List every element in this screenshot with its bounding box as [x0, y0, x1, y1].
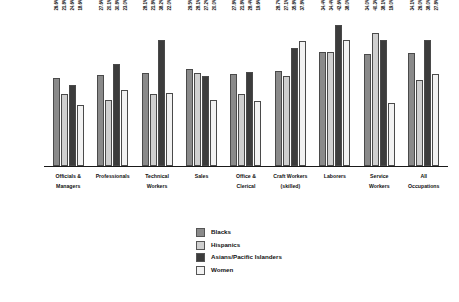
- bar: 27.8%: [432, 74, 439, 166]
- bar-wrapper: 35.8%: [291, 14, 298, 166]
- bar-value-label: 26.0%: [419, 0, 424, 11]
- bar: 35.8%: [291, 48, 298, 166]
- bar-wrapper: 38.0%: [343, 14, 350, 166]
- category-label: TechnicalWorkers: [135, 172, 179, 192]
- x-axis-line: [44, 166, 448, 167]
- bar: 22.0%: [166, 93, 173, 166]
- bar: 21.8%: [238, 94, 245, 166]
- category-label: Officials &Managers: [46, 172, 90, 192]
- bar-wrapper: 30.8%: [113, 14, 120, 166]
- bar: 38.2%: [158, 40, 165, 166]
- bar-value-label: 28.7%: [278, 0, 283, 11]
- bar: 40.3%: [372, 33, 379, 166]
- legend-swatch-icon: [196, 228, 205, 237]
- bar-wrapper: 38.2%: [158, 14, 165, 166]
- bar: 34.4%: [319, 52, 326, 166]
- bar-wrapper: 34.4%: [327, 14, 334, 166]
- legend-item[interactable]: Blacks: [196, 228, 282, 237]
- category-label: Laborers: [313, 172, 357, 192]
- bar-value-label: 34.0%: [367, 0, 372, 11]
- bar-group: 28.1%21.8%38.2%22.0%: [135, 14, 179, 166]
- bar-wrapper: 28.1%: [142, 14, 149, 166]
- bar-wrapper: 28.7%: [275, 14, 282, 166]
- bar-value-label: 26.6%: [56, 0, 61, 11]
- bar-value-label: 37.8%: [302, 0, 307, 11]
- category-label: Office &Clerical: [224, 172, 268, 192]
- bar-wrapper: 19.0%: [388, 14, 395, 166]
- bar: 30.8%: [113, 64, 120, 166]
- bar: 38.0%: [343, 40, 350, 166]
- bar-wrapper: 27.8%: [230, 14, 237, 166]
- bar: 28.7%: [275, 71, 282, 166]
- bar: 34.1%: [408, 53, 415, 166]
- category-label: Professionals: [90, 172, 134, 192]
- bar-value-label: 23.0%: [124, 0, 129, 11]
- bar-wrapper: 40.3%: [372, 14, 379, 166]
- bar-group: 34.4%34.4%42.6%38.0%: [313, 14, 357, 166]
- bar-group: 26.6%21.8%24.6%18.6%: [46, 14, 90, 166]
- chart-legend: BlacksHispanicsAsians/Pacific IslandersW…: [196, 228, 282, 275]
- bar-value-label: 18.6%: [80, 0, 85, 11]
- bar: 24.6%: [69, 85, 76, 166]
- bar: 20.1%: [105, 100, 112, 166]
- bar: 23.0%: [121, 90, 128, 166]
- bar: 34.4%: [327, 52, 334, 166]
- bar-wrapper: 24.6%: [69, 14, 76, 166]
- bar-value-label: 34.4%: [322, 0, 327, 11]
- bar-value-label: 42.6%: [338, 0, 343, 11]
- bar-group: 27.6%20.1%30.8%23.0%: [90, 14, 134, 166]
- plot-area: 26.6%21.8%24.6%18.6%27.6%20.1%30.8%23.0%…: [46, 14, 446, 166]
- bar-group: 27.8%21.8%28.4%19.6%: [224, 14, 268, 166]
- legend-label: Asians/Pacific Islanders: [211, 254, 282, 260]
- bar-wrapper: 19.6%: [254, 14, 261, 166]
- bar: 34.0%: [364, 54, 371, 166]
- bar-value-label: 27.2%: [205, 0, 210, 11]
- bar-value-label: 19.0%: [391, 0, 396, 11]
- bar-wrapper: 21.8%: [238, 14, 245, 166]
- legend-item[interactable]: Hispanics: [196, 241, 282, 250]
- bar: 21.8%: [150, 94, 157, 166]
- bar: 28.1%: [194, 73, 201, 166]
- bar-value-label: 34.1%: [411, 0, 416, 11]
- bar: 21.8%: [61, 94, 68, 166]
- bar-group: 28.7%27.1%35.8%37.8%: [268, 14, 312, 166]
- grouped-bar-chart: 26.6%21.8%24.6%18.6%27.6%20.1%30.8%23.0%…: [0, 0, 459, 302]
- bar: 20.0%: [210, 100, 217, 166]
- bar-value-label: 29.5%: [189, 0, 194, 11]
- bar-wrapper: 27.2%: [202, 14, 209, 166]
- bar-value-label: 38.1%: [383, 0, 388, 11]
- category-label: ServiceWorkers: [357, 172, 401, 192]
- bar-value-label: 27.8%: [233, 0, 238, 11]
- legend-item[interactable]: Asians/Pacific Islanders: [196, 253, 282, 262]
- bar-wrapper: 34.0%: [364, 14, 371, 166]
- legend-swatch-icon: [196, 241, 205, 250]
- bar: 28.1%: [142, 73, 149, 166]
- bar-wrapper: 34.4%: [319, 14, 326, 166]
- bar: 42.6%: [335, 25, 342, 166]
- bar-value-label: 35.8%: [294, 0, 299, 11]
- bar-wrapper: 27.8%: [432, 14, 439, 166]
- bar: 26.0%: [416, 80, 423, 166]
- bar-value-label: 38.0%: [427, 0, 432, 11]
- category-labels: Officials &ManagersProfessionalsTechnica…: [46, 172, 446, 192]
- bar-group: 34.0%40.3%38.1%19.0%: [357, 14, 401, 166]
- bar-value-label: 20.0%: [213, 0, 218, 11]
- bar-wrapper: 29.5%: [186, 14, 193, 166]
- bar-value-label: 28.4%: [249, 0, 254, 11]
- legend-swatch-icon: [196, 266, 205, 275]
- bar: 18.6%: [77, 105, 84, 166]
- legend-label: Women: [211, 267, 233, 273]
- bar: 38.0%: [424, 40, 431, 166]
- category-label: Sales: [179, 172, 223, 192]
- bar-value-label: 22.0%: [169, 0, 174, 11]
- bar-wrapper: 38.0%: [424, 14, 431, 166]
- bar-value-label: 24.6%: [72, 0, 77, 11]
- bar-value-label: 19.6%: [257, 0, 262, 11]
- legend-item[interactable]: Women: [196, 266, 282, 275]
- bar: 27.1%: [283, 76, 290, 166]
- bar-value-label: 21.8%: [241, 0, 246, 11]
- bar: 27.8%: [230, 74, 237, 166]
- bar-value-label: 34.4%: [330, 0, 335, 11]
- bar-wrapper: 23.0%: [121, 14, 128, 166]
- bar: 29.5%: [186, 69, 193, 166]
